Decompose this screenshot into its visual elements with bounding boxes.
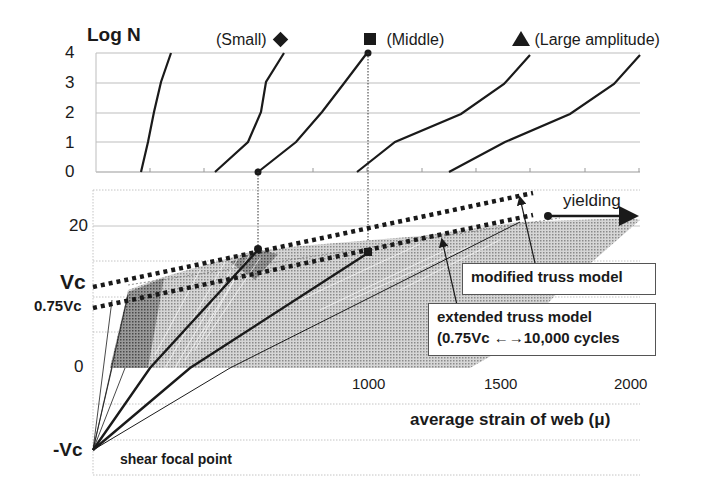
diamond-icon [273, 32, 289, 48]
top-x-ticks [150, 168, 639, 172]
top-gridlines [96, 53, 640, 172]
y-tick-neg-vc: -Vc [53, 439, 83, 461]
x-tick-1000: 1000 [352, 375, 385, 392]
y-tick-vc: Vc [60, 270, 86, 294]
y-tick-20: 20 [69, 216, 88, 236]
extended-truss-model-box: extended truss model (0.75Vc ←→10,000 cy… [428, 303, 656, 356]
legend-middle-label: (Middle) [386, 31, 444, 48]
bottom-point-small [254, 245, 262, 253]
top-tick-0: 0 [65, 162, 74, 182]
legend-large: (Large amplitude) [512, 31, 660, 49]
y-tick-0: 0 [74, 357, 83, 377]
legend-middle: (Middle) [364, 31, 444, 49]
square-icon [364, 33, 376, 45]
top-tick-3: 3 [65, 73, 74, 93]
yielding-label: yielding [563, 191, 621, 211]
extended-truss-model-line2: (0.75Vc ←→10,000 cycles [437, 327, 647, 348]
x-tick-1500: 1500 [484, 375, 517, 392]
x-axis-title: average strain of web (μ) [410, 410, 610, 430]
top-tick-4: 4 [65, 43, 74, 63]
legend-small-label: (Small) [216, 31, 267, 48]
triangle-icon [512, 31, 530, 46]
legend-large-label: (Large amplitude) [534, 31, 659, 48]
y-axis-title-logn: Log N [87, 24, 141, 46]
shear-focal-point-label: shear focal point [120, 451, 232, 467]
bottom-point-middle [364, 248, 372, 256]
y-tick-075vc: 0.75Vc [34, 297, 82, 314]
x-tick-2000: 2000 [614, 375, 647, 392]
extended-truss-model-line1: extended truss model [437, 306, 647, 327]
top-tick-2: 2 [65, 103, 74, 123]
modified-truss-model-box: modified truss model [462, 263, 656, 295]
legend-small: (Small) [216, 31, 286, 49]
modified-truss-model-label: modified truss model [471, 268, 623, 285]
top-tick-1: 1 [65, 133, 74, 153]
